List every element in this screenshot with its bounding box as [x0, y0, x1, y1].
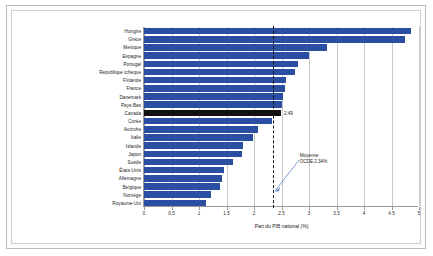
chart-frame: Part du PIB national (%) 00.511.522.533.…	[11, 10, 421, 244]
bar-norv-ge	[144, 191, 211, 198]
bar-row: Norvège	[144, 191, 419, 198]
category-label-espagne: Espagne	[123, 53, 142, 58]
bar-row: Canada2.49	[144, 110, 419, 117]
category-label-royaume-uni: Royaume-Uni	[112, 200, 141, 205]
bar-belgique	[144, 183, 220, 190]
bar-mexique	[144, 44, 327, 51]
bar-value-label: 2.49	[284, 110, 293, 115]
category-label-belgique: Belgique	[123, 184, 141, 189]
bar-pays-bas	[144, 101, 282, 108]
bar-japon	[144, 151, 242, 158]
category-label-norv-ge: Norvège	[123, 192, 141, 197]
category-label-japon: Japon	[128, 151, 141, 156]
gridline-5	[419, 27, 420, 206]
bar-portugal	[144, 61, 298, 68]
bar-autriche	[144, 126, 258, 133]
x-tick-label-1: 1	[198, 211, 201, 216]
bar-row: Italie	[144, 134, 419, 141]
bar-row: Grèce	[144, 36, 419, 43]
x-tick-0.5	[172, 207, 173, 210]
bar-row: Japon	[144, 151, 419, 158]
x-tick-4	[364, 207, 365, 210]
bar-row: États-Unis	[144, 167, 419, 174]
category-label-pays-bas: Pays-Bas	[121, 102, 141, 107]
bar-cor-e	[144, 118, 272, 125]
x-tick-label-2.5: 2.5	[278, 211, 285, 216]
x-tick-5	[419, 207, 420, 210]
bar-row: Royaume-Uni	[144, 200, 419, 207]
category-label-allemagne: Allemagne	[119, 176, 141, 181]
x-tick-1	[199, 207, 200, 210]
bar-row: Portugal	[144, 61, 419, 68]
x-tick-label-2: 2	[253, 211, 256, 216]
bar-row: Allemagne	[144, 175, 419, 182]
bar-row: République tchèque	[144, 69, 419, 76]
bar-row: Autriche	[144, 126, 419, 133]
x-axis-title: Part du PIB national (%)	[144, 223, 419, 229]
plot-area: Part du PIB national (%) 00.511.522.533.…	[143, 27, 418, 207]
bar-gr-ce	[144, 36, 405, 43]
category-label-mexique: Mexique	[123, 45, 141, 50]
bar-row: Finlande	[144, 77, 419, 84]
chart-page: Part du PIB national (%) 00.511.522.533.…	[0, 0, 433, 256]
bar-row: Belgique	[144, 183, 419, 190]
bar-su-de	[144, 159, 233, 166]
category-label-cor-e: Corée	[128, 119, 141, 124]
category-label--tats-unis: États-Unis	[119, 168, 141, 173]
bar--tats-unis	[144, 167, 224, 174]
bar-row: Danemark	[144, 93, 419, 100]
category-label-gr-ce: Grèce	[128, 37, 141, 42]
bar-row: Pays-Bas	[144, 101, 419, 108]
category-label-italie: Italie	[131, 135, 141, 140]
x-tick-3	[309, 207, 310, 210]
bar-row: Islande	[144, 142, 419, 149]
category-label-canada: Canada	[125, 110, 141, 115]
category-label-finlande: Finlande	[123, 78, 141, 83]
bar-row: Mexique	[144, 44, 419, 51]
x-tick-label-0: 0	[143, 211, 146, 216]
oecd-average-line	[273, 26, 274, 208]
bar-canada	[144, 110, 281, 117]
x-tick-label-0.5: 0.5	[168, 211, 175, 216]
bar-islande	[144, 142, 243, 149]
bar-royaume-uni	[144, 200, 206, 207]
category-label-hongrie: Hongrie	[125, 29, 141, 34]
bar-row: Hongrie	[144, 28, 419, 35]
bar-row: France	[144, 85, 419, 92]
bar-row: Corée	[144, 118, 419, 125]
category-label-autriche: Autriche	[124, 127, 141, 132]
x-tick-label-1.5: 1.5	[223, 211, 230, 216]
category-label-portugal: Portugal	[123, 61, 141, 66]
bar-espagne	[144, 52, 309, 59]
x-tick-label-3: 3	[308, 211, 311, 216]
x-tick-2	[254, 207, 255, 210]
bar-france	[144, 85, 285, 92]
annotation-line-2: OCDE 2.34%	[300, 159, 328, 165]
category-label-r-publique-tch-que: République tchèque	[99, 69, 141, 74]
x-tick-label-4: 4	[363, 211, 366, 216]
oecd-average-annotation: MoyenneOCDE 2.34%	[300, 153, 328, 164]
bar-finlande	[144, 77, 286, 84]
bar-danemark	[144, 93, 283, 100]
category-label-su-de: Suède	[127, 159, 141, 164]
x-tick-label-4.5: 4.5	[388, 211, 395, 216]
category-label-islande: Islande	[126, 143, 141, 148]
x-tick-3.5	[337, 207, 338, 210]
x-tick-1.5	[227, 207, 228, 210]
bar-hongrie	[144, 28, 411, 35]
x-tick-label-3.5: 3.5	[333, 211, 340, 216]
bar-row: Suède	[144, 159, 419, 166]
x-tick-0	[144, 207, 145, 210]
bar-italie	[144, 134, 253, 141]
bar-allemagne	[144, 175, 222, 182]
x-tick-4.5	[392, 207, 393, 210]
category-label-danemark: Danemark	[119, 94, 141, 99]
bar-row: Espagne	[144, 52, 419, 59]
x-tick-2.5	[282, 207, 283, 210]
x-tick-label-5: 5	[418, 211, 421, 216]
category-label-france: France	[126, 86, 141, 91]
